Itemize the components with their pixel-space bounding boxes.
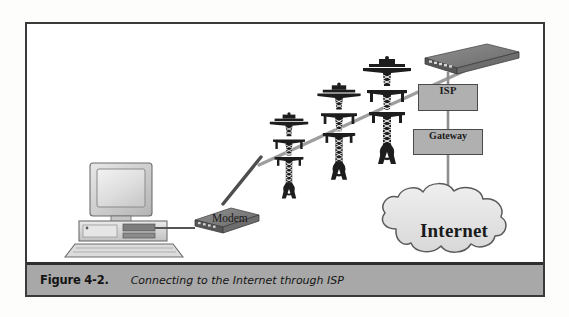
transmission-tower-1	[270, 112, 308, 198]
desktop-computer-icon	[65, 163, 183, 257]
figure-number: Figure 4-2.	[40, 273, 109, 287]
network-diagram: ISP Gateway Modem Internet	[27, 24, 543, 262]
modem-tower-link	[223, 157, 261, 204]
gateway-label: Gateway	[414, 130, 482, 141]
figure-caption-text: Connecting to the Internet through ISP	[131, 274, 344, 287]
modem-label: Modem	[212, 212, 248, 224]
transmission-tower-3	[363, 56, 411, 164]
figure-frame: ISP Gateway Modem Internet Figure 4-2. C…	[25, 22, 545, 297]
router-device-icon	[425, 44, 519, 74]
internet-label: Internet	[420, 220, 488, 242]
isp-node: ISP	[418, 84, 478, 111]
transmission-tower-2	[317, 83, 360, 180]
figure-caption-bar: Figure 4-2. Connecting to the Internet t…	[27, 262, 543, 295]
isp-label: ISP	[419, 85, 477, 96]
gateway-node: Gateway	[413, 129, 483, 155]
